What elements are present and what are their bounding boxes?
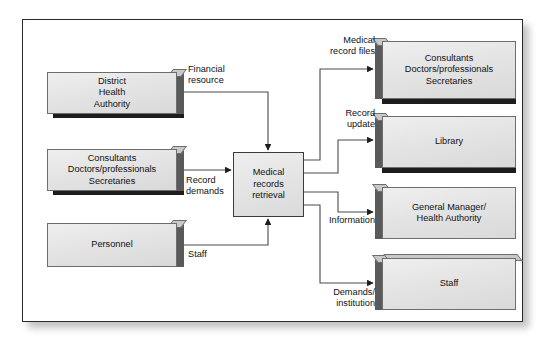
entity-library[interactable]: Library: [382, 116, 516, 168]
flow-label-demands-institution: Demands/ institution: [294, 287, 375, 309]
flow-label-record-update: Record update: [305, 108, 375, 130]
personnel-side: [177, 222, 184, 267]
library-side: [375, 118, 382, 168]
entity-label: District Health Authority: [90, 76, 134, 110]
entity-label: Personnel: [87, 239, 136, 250]
entity-personnel[interactable]: Personnel: [47, 223, 177, 267]
entity-label: Library: [431, 136, 467, 147]
entity-district-health-authority[interactable]: District Health Authority: [47, 72, 177, 114]
entity-label: General Manager/ Health Authority: [408, 202, 490, 225]
process-label: Medical records retrieval: [252, 167, 285, 201]
entity-label: Consultants Doctors/professionals Secret…: [401, 53, 497, 87]
flow-label-information: Information: [295, 215, 375, 226]
consultants-out-side: [375, 43, 382, 99]
general-manager-side: [375, 189, 382, 239]
consultants-in-side: [177, 148, 184, 191]
process-medical-records-retrieval[interactable]: Medical records retrieval: [233, 152, 304, 217]
flow-label-medical-record-files: Medical record files: [297, 35, 375, 57]
entity-consultants-doctors-secretaries-out[interactable]: Consultants Doctors/professionals Secret…: [382, 41, 516, 99]
entity-general-manager-health-authority[interactable]: General Manager/ Health Authority: [382, 187, 516, 239]
entity-label: Staff: [436, 278, 463, 289]
diagram-canvas: District Health Authority Consultants Do…: [0, 0, 558, 349]
entity-staff[interactable]: Staff: [382, 258, 516, 310]
staff-side: [375, 260, 382, 310]
flow-label-staff-inflow: Staff: [188, 249, 207, 260]
entity-consultants-doctors-secretaries-in[interactable]: Consultants Doctors/professionals Secret…: [47, 149, 177, 191]
district-health-authority-side: [177, 71, 184, 114]
flow-label-financial-resource: Financial resource: [188, 64, 225, 86]
entity-label: Consultants Doctors/professionals Secret…: [64, 153, 160, 187]
flow-label-record-demands: Record demands: [186, 175, 224, 197]
